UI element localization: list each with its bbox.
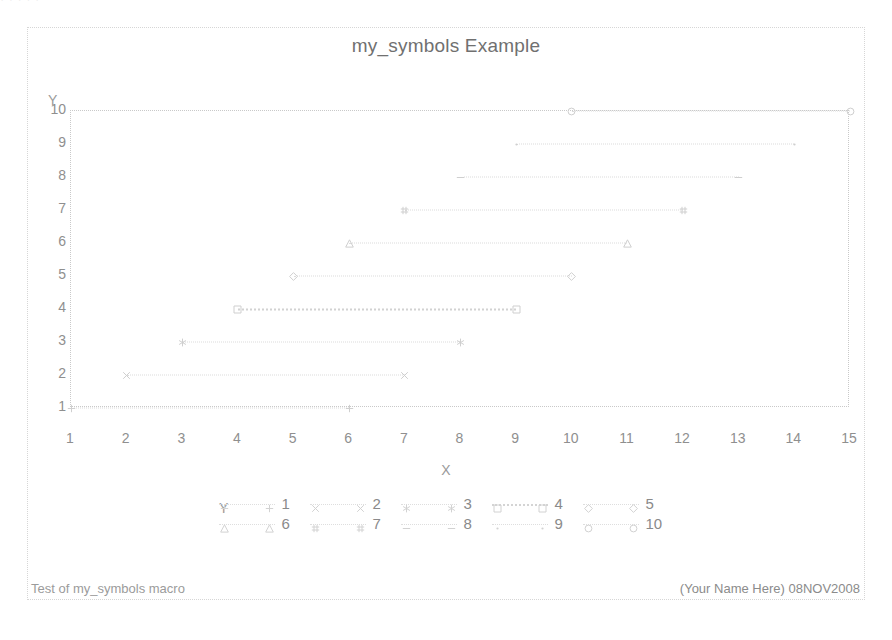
legend-entry[interactable]: 10 [583, 515, 674, 532]
legend-entry[interactable]: 5 [583, 495, 674, 512]
x-tick-label: 4 [217, 430, 257, 446]
legend-swatch [310, 518, 366, 530]
legend-label: 1 [282, 495, 304, 512]
y-tick-label: 4 [32, 299, 66, 315]
x-tick-label: 14 [773, 430, 813, 446]
y-tick-label: 8 [32, 167, 66, 183]
legend-row: 12345 [219, 495, 674, 512]
series-marker [790, 140, 799, 149]
legend-row: 678910 [219, 515, 674, 532]
series-marker [400, 206, 409, 215]
plot-area [70, 110, 849, 407]
series-line [349, 243, 627, 245]
y-tick-label: 2 [32, 365, 66, 381]
footnote-left: Test of my_symbols macro [31, 581, 185, 596]
legend-marker-icon [402, 499, 411, 508]
legend-entry[interactable]: 1 [219, 495, 310, 512]
legend-marker-icon [447, 519, 456, 528]
legend-entry[interactable]: 7 [310, 515, 401, 532]
legend-marker-icon [493, 519, 502, 528]
legend-label: 7 [373, 515, 395, 532]
legend-marker-icon [356, 519, 365, 528]
x-tick-label: 9 [495, 430, 535, 446]
series-marker [67, 404, 76, 413]
legend-swatch [401, 498, 457, 510]
series-marker [400, 371, 409, 380]
series-marker [289, 272, 298, 281]
y-tick-label: 1 [32, 398, 66, 414]
legend-label: 8 [464, 515, 486, 532]
series-marker [512, 305, 521, 314]
legend-swatch [583, 518, 639, 530]
legend-marker-icon [311, 519, 320, 528]
series-marker [122, 371, 131, 380]
x-tick-label: 10 [551, 430, 591, 446]
series-line [516, 144, 794, 146]
footnote-right: (Your Name Here) 08NOV2008 [680, 581, 860, 596]
legend-label: 4 [555, 495, 577, 512]
legend-entry[interactable]: 2 [310, 495, 401, 512]
legend-marker-icon [629, 499, 638, 508]
series-marker [846, 107, 855, 116]
legend-entry[interactable]: 9 [492, 515, 583, 532]
legend-label: 9 [555, 515, 577, 532]
legend-marker-icon [629, 519, 638, 528]
plot-series-layer [71, 111, 848, 406]
legend-marker-icon [356, 499, 365, 508]
x-tick-label: 2 [106, 430, 146, 446]
series-line [127, 375, 405, 377]
legend-entry[interactable]: 4 [492, 495, 583, 512]
series-line [238, 309, 516, 312]
legend-marker-icon [402, 519, 411, 528]
legend-swatch [219, 518, 275, 530]
legend-swatch [310, 498, 366, 510]
legend-entry[interactable]: 3 [401, 495, 492, 512]
series-marker [567, 272, 576, 281]
legend-entry[interactable]: 6 [219, 515, 310, 532]
x-tick-label: 11 [606, 430, 646, 446]
legend-label: 5 [646, 495, 668, 512]
legend-label: 3 [464, 495, 486, 512]
legend-marker-icon [493, 499, 502, 508]
y-tick-label: 7 [32, 200, 66, 216]
series-line [405, 210, 683, 212]
x-tick-label: 15 [829, 430, 869, 446]
series-marker [623, 239, 632, 248]
legend-marker-icon [265, 499, 274, 508]
x-tick-label: 3 [161, 430, 201, 446]
x-tick-label: 6 [328, 430, 368, 446]
y-tick-label: 3 [32, 332, 66, 348]
legend-label: 6 [282, 515, 304, 532]
x-tick-label: 13 [718, 430, 758, 446]
legend-marker-icon [584, 519, 593, 528]
y-tick-label: 10 [32, 101, 66, 117]
series-marker [512, 140, 521, 149]
series-marker [345, 404, 354, 413]
series-marker [345, 239, 354, 248]
legend-label: 10 [646, 515, 668, 532]
series-marker [456, 338, 465, 347]
y-tick-label: 9 [32, 134, 66, 150]
series-line [182, 342, 460, 344]
series-marker [456, 173, 465, 182]
legend-marker-icon [538, 519, 547, 528]
legend-marker-icon [265, 519, 274, 528]
chart-legend: 12345678910 [0, 495, 892, 532]
y-axis-ticks: 12345678910 [26, 110, 66, 407]
series-marker [233, 305, 242, 314]
x-tick-label: 12 [662, 430, 702, 446]
x-axis-ticks: 123456789101112131415 [70, 430, 849, 452]
series-line [294, 276, 572, 278]
legend-label: 2 [373, 495, 395, 512]
legend-marker-icon [584, 499, 593, 508]
legend-marker-icon [220, 519, 229, 528]
legend-marker-icon [538, 499, 547, 508]
legend-entry[interactable]: 8 [401, 515, 492, 532]
series-marker [679, 206, 688, 215]
legend-swatch [401, 518, 457, 530]
series-marker [567, 107, 576, 116]
legend-swatch [492, 498, 548, 510]
x-axis-label: X [0, 462, 892, 478]
chart-title: my_symbols Example [0, 35, 892, 57]
legend-swatch [492, 518, 548, 530]
